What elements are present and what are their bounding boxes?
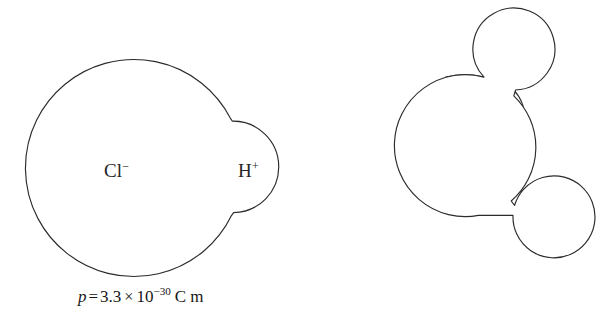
caption-mantissa: 3.3 (100, 287, 121, 306)
chloride-symbol: Cl (104, 160, 122, 181)
ion-label-hydrogen-hcl: H+ (238, 161, 259, 180)
ion-label-chloride: Cl− (104, 161, 129, 180)
hcl-molecule-outline (0, 0, 310, 326)
figure-stage: Cl− H+ p=3.3×10−30Cm O2− H+ H+ p=6.3×10−… (0, 0, 603, 326)
chloride-charge: − (122, 160, 129, 173)
caption-symbol-p: p (78, 287, 88, 306)
caption-base: 10 (136, 287, 153, 306)
caption-unit-metre: m (186, 287, 204, 306)
panel-hydrogen-chloride: Cl− H+ p=3.3×10−30Cm (0, 0, 310, 326)
caption-multiplication-sign: × (121, 288, 136, 305)
caption-equals: = (88, 287, 101, 306)
caption-hcl-dipole-moment: p=3.3×10−30Cm (78, 288, 204, 305)
water-molecule-outline (300, 0, 603, 326)
caption-unit-coulomb: C (171, 287, 187, 306)
hydrogen-charge: + (252, 160, 259, 173)
caption-exponent: −30 (153, 285, 170, 297)
hydrogen-symbol: H (238, 160, 252, 181)
panel-water: O2− H+ H+ p=6.3×10−30Cm (300, 0, 603, 326)
